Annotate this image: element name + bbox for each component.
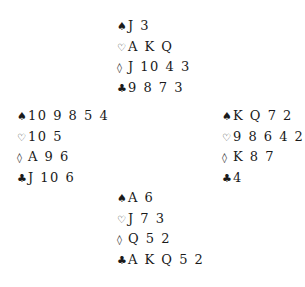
- west-diamonds-row: ◊A 9 6: [17, 147, 109, 168]
- east-diamonds: K 8 7: [233, 149, 275, 164]
- spade-icon: ♠: [117, 189, 128, 210]
- east-hearts: 9 8 6 4 2: [233, 129, 304, 144]
- south-diamonds: Q 5 2: [128, 231, 171, 246]
- south-hearts-row: ♡J 7 3: [117, 209, 204, 230]
- east-hand: ♠K Q 7 2 ♡9 8 6 4 2 ◊K 8 7 ♣4: [222, 106, 304, 188]
- east-clubs: 4: [233, 170, 243, 185]
- west-hand: ♠10 9 8 5 4 ♡10 5 ◊A 9 6 ♣J 10 6: [17, 106, 109, 188]
- east-clubs-row: ♣4: [222, 168, 304, 189]
- west-hearts: 10 5: [28, 129, 63, 144]
- south-spades-row: ♠A 6: [117, 188, 204, 209]
- north-diamonds-row: ◊J 10 4 3: [117, 57, 191, 78]
- south-clubs: A K Q 5 2: [128, 252, 204, 267]
- east-diamonds-row: ◊K 8 7: [222, 147, 304, 168]
- south-hand: ♠A 6 ♡J 7 3 ◊Q 5 2 ♣A K Q 5 2: [117, 188, 204, 270]
- west-hearts-row: ♡10 5: [17, 127, 109, 148]
- diamond-icon: ◊: [17, 148, 28, 169]
- south-clubs-row: ♣A K Q 5 2: [117, 250, 204, 271]
- south-hearts: J 7 3: [128, 211, 166, 226]
- west-clubs: J 10 6: [28, 170, 75, 185]
- east-spades-row: ♠K Q 7 2: [222, 106, 304, 127]
- east-hearts-row: ♡9 8 6 4 2: [222, 127, 304, 148]
- north-spades-row: ♠J 3: [117, 16, 191, 37]
- diamond-icon: ◊: [117, 58, 128, 79]
- south-diamonds-row: ◊Q 5 2: [117, 229, 204, 250]
- north-hand: ♠J 3 ♡A K Q ◊J 10 4 3 ♣9 8 7 3: [117, 16, 191, 98]
- north-diamonds: J 10 4 3: [128, 59, 191, 74]
- diamond-icon: ◊: [117, 230, 128, 251]
- club-icon: ♣: [117, 79, 128, 100]
- west-spades-row: ♠10 9 8 5 4: [17, 106, 109, 127]
- heart-icon: ♡: [222, 128, 233, 149]
- north-hearts-row: ♡A K Q: [117, 37, 191, 58]
- club-icon: ♣: [117, 251, 128, 272]
- west-spades: 10 9 8 5 4: [28, 108, 109, 123]
- north-clubs: 9 8 7 3: [128, 80, 184, 95]
- south-spades: A 6: [128, 190, 154, 205]
- north-spades: J 3: [128, 18, 150, 33]
- spade-icon: ♠: [17, 107, 28, 128]
- west-diamonds: A 9 6: [28, 149, 70, 164]
- east-spades: K Q 7 2: [233, 108, 293, 123]
- diamond-icon: ◊: [222, 148, 233, 169]
- heart-icon: ♡: [17, 128, 28, 149]
- club-icon: ♣: [222, 169, 233, 190]
- heart-icon: ♡: [117, 210, 128, 231]
- north-clubs-row: ♣9 8 7 3: [117, 78, 191, 99]
- north-hearts: A K Q: [128, 39, 174, 54]
- club-icon: ♣: [17, 169, 28, 190]
- heart-icon: ♡: [117, 38, 128, 59]
- west-clubs-row: ♣J 10 6: [17, 168, 109, 189]
- spade-icon: ♠: [117, 17, 128, 38]
- spade-icon: ♠: [222, 107, 233, 128]
